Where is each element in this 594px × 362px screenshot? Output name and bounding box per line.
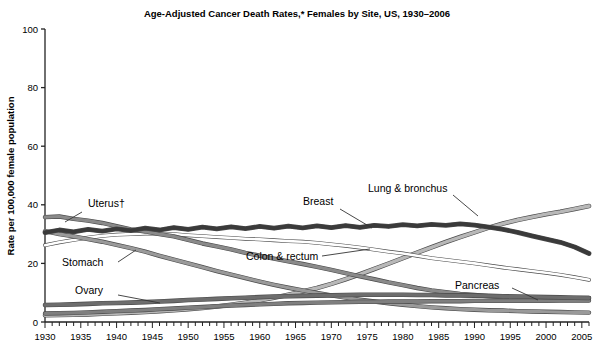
x-tick-label: 1955 (213, 331, 234, 342)
x-tick-label: 1945 (142, 331, 163, 342)
y-tick-label: 40 (27, 199, 38, 210)
x-tick-label: 1930 (34, 331, 55, 342)
lung-bronchus-label: Lung & bronchus (368, 182, 447, 194)
x-tick-label: 1975 (357, 331, 378, 342)
y-tick-label: 100 (22, 24, 38, 35)
y-axis-label: Rate per 100,000 female population (5, 96, 16, 255)
chart-title: Age-Adjusted Cancer Death Rates,* Female… (144, 8, 450, 19)
x-tick-label: 1995 (500, 331, 521, 342)
x-tick-label: 1965 (285, 331, 306, 342)
breast-label: Breast (303, 195, 333, 207)
x-tick-label: 2005 (571, 331, 592, 342)
y-tick-label: 60 (27, 141, 38, 152)
cancer-death-rates-chart: Age-Adjusted Cancer Death Rates,* Female… (0, 0, 594, 362)
x-tick-label: 2000 (535, 331, 556, 342)
y-tick-label: 20 (27, 258, 38, 269)
x-tick-label: 1970 (321, 331, 342, 342)
x-tick-label: 1950 (178, 331, 199, 342)
y-tick-label: 80 (27, 82, 38, 93)
x-tick-label: 1940 (106, 331, 127, 342)
chart-background (0, 0, 594, 362)
uterus-label: Uterus† (88, 197, 125, 209)
x-tick-label: 1990 (464, 331, 485, 342)
ovary-label: Ovary (75, 284, 104, 296)
colon-rectum-label: Colon & rectum (246, 250, 319, 262)
pancreas-label: Pancreas (455, 279, 499, 291)
chart-container: Age-Adjusted Cancer Death Rates,* Female… (0, 0, 594, 362)
x-tick-label: 1985 (428, 331, 449, 342)
x-tick-label: 1960 (249, 331, 270, 342)
y-tick-label: 0 (33, 317, 38, 328)
stomach-label: Stomach (62, 256, 104, 268)
x-tick-label: 1935 (70, 331, 91, 342)
x-tick-label: 1980 (392, 331, 413, 342)
